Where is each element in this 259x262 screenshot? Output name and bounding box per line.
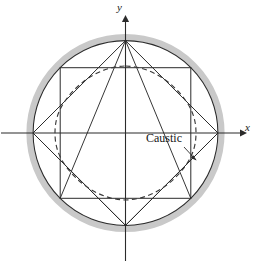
ray-top-to-square-bottom-right — [126, 41, 191, 199]
y-axis-arrowhead — [122, 15, 129, 22]
y-axis-label: y — [117, 2, 122, 13]
caustic-diagram — [0, 0, 259, 262]
ray-top-to-square-bottom-left — [60, 41, 125, 199]
caustic-figure: y x Caustic — [0, 0, 259, 262]
ray-bottom-to-left — [33, 133, 126, 225]
x-axis-label: x — [245, 122, 250, 133]
ray-bottom-to-right — [126, 133, 219, 225]
caustic-annotation-label: Caustic — [146, 132, 182, 144]
